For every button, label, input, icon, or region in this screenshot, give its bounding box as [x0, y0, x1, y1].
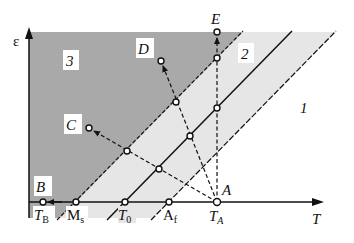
tick-label-af: Af [163, 207, 178, 225]
region-1-label: 1 [300, 100, 308, 116]
point-d-ms-crossing [173, 99, 179, 105]
temperature-axis-label: T [312, 211, 322, 227]
point-a [214, 199, 221, 206]
point-d [158, 58, 164, 64]
point-e [214, 29, 220, 35]
point-c-ms-crossing [124, 148, 130, 154]
phase-diagram: ε T 3 2 1 D C B E A TB Ms T0 Af TA [0, 0, 354, 243]
point-tb [40, 199, 46, 205]
point-c-label: C [66, 117, 77, 133]
point-d-t0-crossing [187, 133, 193, 139]
point-a-label: A [221, 182, 232, 198]
region-2-label: 2 [241, 46, 249, 62]
point-d-label: D [137, 41, 149, 57]
point-e-ms-crossing [214, 55, 220, 61]
point-e-label: E [210, 11, 220, 27]
point-af [166, 199, 172, 205]
point-t0 [122, 199, 128, 205]
point-e-t0-crossing [214, 105, 220, 111]
point-b-label: B [36, 179, 45, 195]
point-ms [73, 199, 79, 205]
point-c-t0-crossing [156, 166, 162, 172]
strain-axis-label: ε [13, 33, 19, 49]
tick-label-ta: TA [209, 208, 224, 226]
region-3-label: 3 [65, 53, 74, 69]
temperature-axis-arrow-icon [312, 198, 324, 206]
point-c [86, 125, 92, 131]
